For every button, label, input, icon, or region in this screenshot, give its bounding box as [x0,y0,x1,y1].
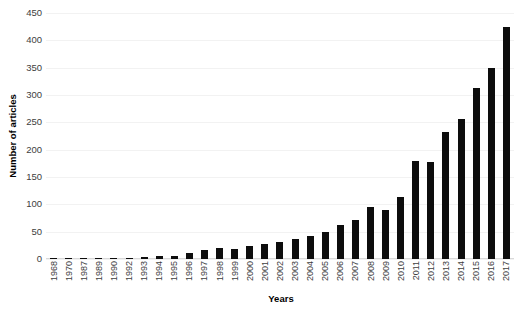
x-tick-slot: 2002 [272,260,287,290]
x-tick-label: 1993 [140,261,149,281]
x-tick-slot: 1995 [167,260,182,290]
x-tick-slot: 1987 [76,260,91,290]
x-tick-slot: 2008 [363,260,378,290]
bar-slot [46,13,61,259]
y-tick-label: 50 [2,227,42,237]
x-tick-label: 2011 [411,261,420,280]
x-tick-label: 2001 [260,261,269,281]
x-tick-label: 2015 [472,261,481,281]
x-tick-label: 2016 [487,261,496,281]
bar [458,119,465,259]
bar-slot [257,13,272,259]
bar-slot [408,13,423,259]
x-axis-tick-labels: 1968197019871989199019921993199419951996… [46,260,514,290]
bar-slot [242,13,257,259]
bar [246,246,253,259]
x-tick-slot: 1992 [121,260,136,290]
bar-chart: Number of articles 450400350300250200150… [0,0,520,310]
x-tick-label: 2002 [275,261,284,281]
bar [171,256,178,259]
x-tick-slot: 1999 [227,260,242,290]
x-tick-slot: 2015 [469,260,484,290]
bar [276,242,283,259]
bar-slot [454,13,469,259]
x-tick-label: 2005 [321,261,330,281]
x-tick-label: 1968 [49,261,58,281]
x-tick-slot: 2007 [348,260,363,290]
bar-slot [197,13,212,259]
bar [382,210,389,259]
x-tick-slot: 2006 [333,260,348,290]
bar [156,256,163,259]
x-tick-label: 1970 [64,261,73,281]
x-tick-label: 1987 [79,261,88,281]
x-tick-label: 1999 [230,261,239,281]
bar-slot [227,13,242,259]
bar [80,258,87,259]
bar-slot [106,13,121,259]
bar [292,239,299,259]
bar [186,253,193,259]
bar [50,258,57,259]
y-tick-label: 250 [2,117,42,127]
bar-slot [137,13,152,259]
bar [307,236,314,259]
y-tick-label: 350 [2,63,42,73]
y-tick-label: 450 [2,8,42,18]
x-tick-label: 2013 [441,261,450,281]
bar [352,220,359,259]
x-tick-label: 1994 [155,261,164,281]
bar [65,258,72,259]
bar-slot [61,13,76,259]
bar-slot [272,13,287,259]
y-tick-label: 300 [2,90,42,100]
x-tick-label: 1992 [125,261,134,281]
bar-slot [438,13,453,259]
bar-slot [333,13,348,259]
y-tick-label: 0 [2,254,42,264]
x-tick-slot: 1990 [106,260,121,290]
x-tick-slot: 2010 [393,260,408,290]
x-tick-slot: 1998 [212,260,227,290]
bar-slot [152,13,167,259]
bar-slot [469,13,484,259]
x-tick-label: 2009 [381,261,390,281]
x-tick-slot: 1968 [46,260,61,290]
x-tick-label: 1997 [200,261,209,281]
x-tick-slot: 1997 [197,260,212,290]
bar [95,258,102,259]
x-tick-label: 2012 [426,261,435,281]
bar [126,258,133,259]
x-tick-label: 2008 [366,261,375,281]
x-tick-label: 1989 [94,261,103,281]
bar [216,248,223,259]
x-tick-label: 1998 [215,261,224,281]
y-tick-label: 150 [2,172,42,182]
x-tick-slot: 1993 [137,260,152,290]
bar [427,162,434,259]
x-tick-slot: 2011 [408,260,423,290]
y-tick-label: 100 [2,199,42,209]
bar [261,244,268,259]
bar [110,258,117,259]
x-tick-label: 1996 [185,261,194,281]
bar-slot [212,13,227,259]
bar-slot [288,13,303,259]
bar [141,257,148,259]
bar-slot [121,13,136,259]
bar-slot [91,13,106,259]
bar-slot [182,13,197,259]
x-tick-label: 2006 [336,261,345,281]
x-tick-slot: 2004 [303,260,318,290]
bar [442,132,449,259]
bar-slot [363,13,378,259]
bar-slot [499,13,514,259]
bar [201,250,208,259]
x-tick-label: 2017 [502,261,511,281]
bar-slot [348,13,363,259]
bar-series [46,13,514,259]
x-tick-label: 2010 [396,261,405,281]
bar [397,197,404,259]
y-tick-label: 400 [2,35,42,45]
x-tick-slot: 2014 [454,260,469,290]
